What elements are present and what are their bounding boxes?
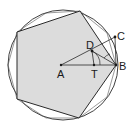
label-T: T — [91, 68, 98, 80]
segment-CB — [115, 37, 116, 65]
point-B — [115, 64, 118, 67]
label-B: B — [119, 60, 126, 72]
label-A: A — [57, 68, 65, 80]
point-C — [114, 36, 117, 39]
geometry-diagram: A T D C B — [0, 0, 130, 126]
label-C: C — [117, 30, 125, 42]
inscribed-pentagon — [17, 11, 116, 118]
point-T — [93, 64, 95, 66]
point-A — [60, 64, 62, 66]
label-D: D — [86, 39, 94, 51]
